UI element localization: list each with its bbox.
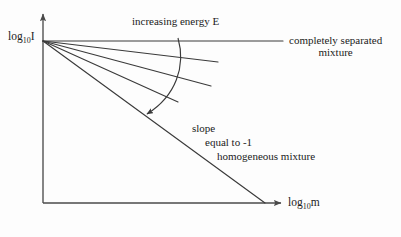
- curve-homogeneous-mixture: [43, 41, 265, 203]
- x-axis-label: log10m: [288, 196, 320, 212]
- annotation-homogeneous-mixture: homogeneous mixture: [217, 150, 315, 162]
- annotation-separated-line1: completely separated: [289, 34, 382, 46]
- annotation-slope: slope: [192, 122, 215, 134]
- y-axis-label: log10I: [8, 30, 35, 46]
- x-axis-label-subscript: 10: [303, 202, 311, 211]
- x-axis-label-tail: m: [311, 196, 320, 208]
- figure-root: log10I log10m increasing energy E comple…: [0, 0, 401, 237]
- y-axis-label-main: log: [8, 30, 23, 42]
- annotation-increasing-energy: increasing energy E: [132, 15, 219, 27]
- annotation-completely-separated-mixture: completely separatedmixture: [289, 34, 382, 59]
- curve-energy-1: [43, 41, 218, 62]
- annotation-separated-line2: mixture: [289, 46, 382, 58]
- y-axis-label-subscript: 10: [23, 36, 31, 45]
- annotation-equal-to-minus-one: equal to -1: [205, 136, 252, 148]
- x-axis-label-main: log: [288, 196, 303, 208]
- y-axis-label-tail: I: [31, 30, 35, 42]
